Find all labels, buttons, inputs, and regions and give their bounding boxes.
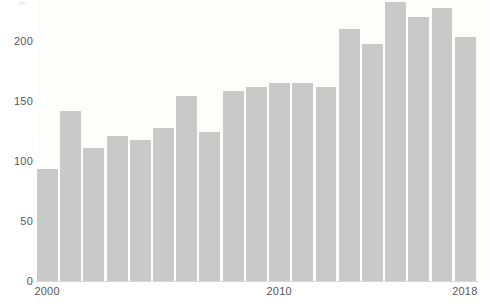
bar xyxy=(432,8,453,281)
bar xyxy=(37,169,58,281)
y-axis-tick-label: 50 xyxy=(3,216,33,227)
bar xyxy=(153,128,174,281)
y-axis-tick-label: 200 xyxy=(3,36,33,47)
x-axis-tick-label: 2000 xyxy=(34,285,59,297)
x-axis-tick-label: 2010 xyxy=(267,285,292,297)
bar xyxy=(130,140,151,281)
bar xyxy=(199,132,220,281)
bar xyxy=(316,87,337,281)
bar xyxy=(223,91,244,281)
bar xyxy=(269,83,290,281)
bar xyxy=(83,148,104,281)
bar xyxy=(292,83,313,281)
bar xyxy=(455,37,476,281)
x-axis-line xyxy=(36,281,479,282)
bar xyxy=(362,44,383,281)
y-axis-tick-label: 100 xyxy=(3,156,33,167)
x-axis-tick-labels: 200020102018 xyxy=(0,285,491,305)
y-axis-tick-label: 150 xyxy=(3,96,33,107)
bar xyxy=(385,2,406,281)
bar-chart: 050100150200 200020102018 xyxy=(0,0,491,308)
x-axis-tick-label: 2018 xyxy=(452,285,477,297)
bar xyxy=(176,96,197,281)
bar xyxy=(339,29,360,281)
bar xyxy=(408,17,429,281)
bar xyxy=(246,87,267,281)
y-axis-tick-labels: 050100150200 xyxy=(0,0,33,308)
bars-layer xyxy=(0,0,491,281)
bar xyxy=(60,111,81,281)
bar xyxy=(107,136,128,281)
